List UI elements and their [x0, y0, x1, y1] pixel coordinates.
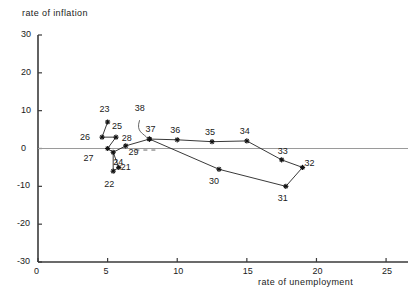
data-point-marker — [99, 135, 104, 140]
x-tick-label: 20 — [312, 266, 322, 276]
point-label-36: 36 — [170, 125, 180, 135]
point-label-26: 26 — [80, 132, 90, 142]
x-tick-label: 15 — [243, 266, 253, 276]
data-point-marker — [244, 138, 249, 143]
point-label-37: 37 — [145, 124, 155, 134]
x-tick-label: 0 — [34, 266, 39, 276]
y-tick-label: 20 — [21, 67, 31, 77]
data-point-marker — [216, 167, 221, 172]
data-point-marker — [209, 139, 214, 144]
point-label-34: 34 — [240, 126, 250, 136]
x-tick-label: 25 — [382, 266, 392, 276]
data-point-marker — [111, 150, 116, 155]
data-point-marker — [147, 136, 152, 141]
data-point-marker — [105, 119, 110, 124]
point-label-22: 22 — [104, 179, 114, 189]
y-tick-label: -30 — [17, 256, 30, 266]
y-tick-label: 30 — [21, 29, 31, 39]
point-label-25: 25 — [112, 121, 122, 131]
point-label-31: 31 — [278, 193, 288, 203]
y-tick-label: -20 — [17, 218, 30, 228]
point-label-35: 35 — [205, 127, 215, 137]
data-point-marker — [279, 157, 284, 162]
y-axis-title: rate of inflation — [22, 8, 88, 18]
chart-figure: rate of inflation rate of unemployment 0… — [0, 0, 415, 301]
point-label-33: 33 — [278, 146, 288, 156]
x-tick-label: 5 — [104, 266, 109, 276]
scatter-plot-canvas — [0, 0, 415, 301]
y-tick-label: -10 — [17, 180, 30, 190]
point-label-28: 28 — [122, 133, 132, 143]
point-label-24: 24 — [113, 157, 123, 167]
point-label-27: 27 — [84, 153, 94, 163]
data-point-marker — [175, 137, 180, 142]
data-point-marker — [283, 184, 288, 189]
x-axis-title: rate of unemployment — [258, 277, 353, 287]
point-label-32: 32 — [305, 158, 315, 168]
point-label-23: 23 — [100, 104, 110, 114]
point-label-30: 30 — [209, 176, 219, 186]
x-tick-label: 10 — [173, 266, 183, 276]
point-label-38: 38 — [135, 103, 145, 113]
y-tick-label: 10 — [21, 105, 31, 115]
data-point-marker — [111, 169, 116, 174]
data-point-marker — [105, 146, 110, 151]
y-tick-label: 0 — [21, 143, 26, 153]
data-point-marker — [113, 135, 118, 140]
point-label-29: 29 — [128, 147, 138, 157]
